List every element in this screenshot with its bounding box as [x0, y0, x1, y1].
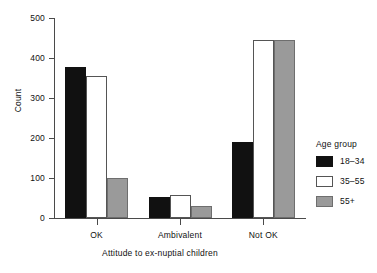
y-tick-label: 300: [30, 94, 45, 103]
legend-swatch-icon: [316, 196, 333, 207]
legend-item-2: 55+: [316, 195, 377, 207]
bar-ambivalent-0: [149, 197, 170, 218]
plot-area: [55, 18, 305, 218]
bar-not-ok-1: [253, 40, 274, 218]
bar-not-ok-2: [274, 40, 295, 218]
legend-label: 55+: [340, 197, 355, 206]
legend-item-0: 18–34: [316, 155, 377, 167]
legend-swatch-icon: [316, 176, 333, 187]
y-tick-mark: [49, 218, 55, 219]
y-tick-label: 100: [30, 174, 45, 183]
bar-chart: Count 0100200300400500 OKAmbivalentNot O…: [0, 0, 377, 273]
bar-not-ok-0: [232, 142, 253, 218]
bar-ok-1: [86, 76, 107, 218]
legend-items: 18–3435–5555+: [316, 155, 377, 207]
legend-label: 18–34: [340, 157, 365, 166]
bar-ambivalent-1: [170, 195, 191, 218]
bar-ok-0: [65, 67, 86, 218]
legend: Age group 18–3435–5555+: [316, 140, 377, 215]
bar-ambivalent-2: [191, 206, 212, 218]
x-axis-title: Attitude to ex-nuptial children: [0, 249, 320, 258]
x-tick-mark: [97, 219, 98, 225]
legend-label: 35–55: [340, 177, 365, 186]
y-tick-label: 200: [30, 134, 45, 143]
legend-swatch-icon: [316, 156, 333, 167]
x-tick-mark: [180, 219, 181, 225]
x-tick-label: Not OK: [213, 231, 313, 240]
y-tick-label: 400: [30, 54, 45, 63]
x-tick-mark: [263, 219, 264, 225]
legend-title: Age group: [316, 140, 377, 149]
y-tick-label: 0: [40, 214, 45, 223]
y-tick-label: 500: [30, 14, 45, 23]
y-axis-title: Count: [14, 81, 23, 121]
legend-item-1: 35–55: [316, 175, 377, 187]
bar-ok-2: [107, 178, 128, 218]
